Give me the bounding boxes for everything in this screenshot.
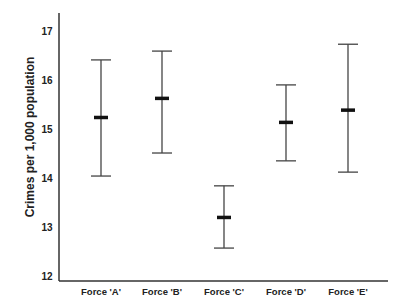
y-axis-title: Crimes per 1,000 population (23, 57, 37, 218)
y-tick-label: 12 (41, 271, 53, 282)
mean-marker (341, 108, 355, 112)
mean-marker (279, 121, 293, 125)
error-bar (214, 186, 234, 248)
x-category-label: Force 'B' (142, 286, 182, 297)
error-bar-chart: 121314151617 Crimes per 1,000 population… (0, 0, 409, 308)
error-bar (276, 85, 296, 161)
y-tick-label: 17 (41, 26, 53, 37)
y-tick-label: 14 (41, 173, 53, 184)
error-bar (91, 60, 111, 176)
error-bar (152, 51, 172, 153)
x-category-label: Force 'E' (328, 286, 367, 297)
y-tick-label: 16 (41, 75, 53, 86)
error-bars (91, 44, 358, 248)
x-category-label: Force 'A' (81, 286, 121, 297)
mean-marker (155, 97, 169, 101)
error-bar (338, 44, 358, 172)
y-axis-ticks: 121314151617 (41, 26, 53, 282)
mean-marker (94, 116, 108, 120)
x-category-label: Force 'D' (266, 286, 306, 297)
x-category-label: Force 'C' (204, 286, 244, 297)
y-tick-label: 13 (41, 222, 53, 233)
x-axis-labels: Force 'A'Force 'B'Force 'C'Force 'D'Forc… (81, 286, 368, 297)
y-tick-label: 15 (41, 124, 53, 135)
mean-marker (217, 216, 231, 220)
